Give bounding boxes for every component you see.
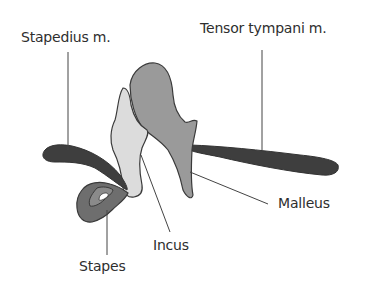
ossicle-diagram: Stapedius m. Tensor tympani m. Malleus I… [0, 0, 369, 294]
label-malleus: Malleus [278, 195, 330, 211]
label-stapedius-muscle: Stapedius m. [21, 29, 111, 45]
label-incus: Incus [153, 237, 189, 253]
incus-leader-line [141, 155, 170, 232]
tensor-tympani-muscle [190, 145, 338, 175]
label-tensor-tympani-muscle: Tensor tympani m. [200, 20, 327, 36]
label-stapes: Stapes [79, 258, 126, 274]
malleus-leader-line [190, 172, 268, 204]
